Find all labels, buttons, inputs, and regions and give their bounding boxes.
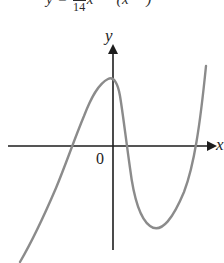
formula-paren-open: (x [116,0,128,7]
graph-plot: y x 0 [0,16,224,263]
formula-paren-close: ) [146,0,151,7]
formula-fraction: 14 [73,0,86,13]
formula-variable: x [87,0,94,7]
origin-label: 0 [96,150,104,168]
x-axis-label: x [216,135,224,155]
y-axis [108,44,118,250]
y-axis-label: y [105,26,113,46]
cropped-formula-line: y = 14 x3 (x ) [0,0,224,16]
graph-svg [0,16,224,263]
figure-container: y = 14 x3 (x ) [0,0,224,263]
formula-lhs: y = [46,0,68,7]
formula-expression: y = 14 x3 (x ) [46,0,152,13]
fraction-denominator: 14 [73,2,86,13]
